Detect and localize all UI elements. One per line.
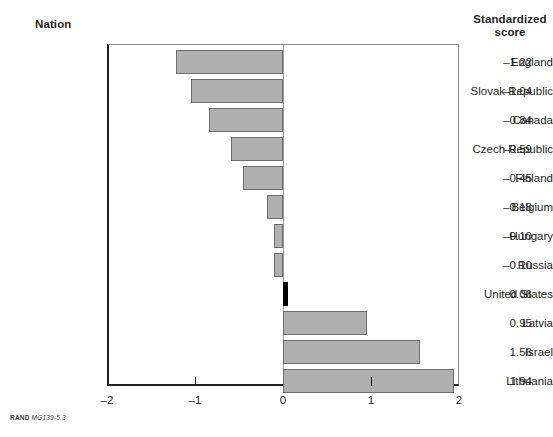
score-value-czech-republic: –0.59	[470, 143, 532, 155]
nation-column-header: Nation	[35, 18, 71, 31]
score-header-line2: score	[470, 26, 550, 39]
x-tick-label-neg1: –1	[175, 394, 215, 406]
bar-czech-republic	[231, 137, 283, 161]
rand-logo-text: RAND	[10, 414, 30, 421]
score-value-israel: 1.56	[470, 346, 532, 358]
x-tick-label-2: 2	[439, 394, 479, 406]
bar-lithuania	[283, 369, 454, 393]
score-value-russia: –0.10	[470, 259, 532, 271]
standardized-score-column-header: Standardized score	[470, 13, 550, 39]
chart-figure: Nation Standardized score EnglandSlovak …	[0, 0, 553, 437]
figure-credit: RAND MG139-5.3	[10, 414, 66, 421]
figure-number: MG139-5.3	[32, 414, 66, 421]
bar-united-states	[283, 282, 288, 306]
x-tick-label-0: 0	[263, 394, 303, 406]
score-value-hungary: –0.10	[470, 230, 532, 242]
bar-belgium	[267, 195, 283, 219]
x-tick-label-1: 1	[351, 394, 391, 406]
x-tick-mark-1	[371, 377, 372, 386]
x-tick-label-neg2: –2	[87, 394, 127, 406]
bar-russia	[274, 253, 283, 277]
score-value-canada: –0.84	[470, 114, 532, 126]
bar-latvia	[283, 311, 367, 335]
x-tick-mark-neg1	[195, 377, 196, 386]
score-value-lithuania: 1.94	[470, 375, 532, 387]
bar-israel	[283, 340, 420, 364]
score-value-england: –1.22	[470, 56, 532, 68]
score-value-belgium: –0.18	[470, 201, 532, 213]
score-value-slovak-republic: –1.04	[470, 85, 532, 97]
bar-canada	[209, 108, 283, 132]
bar-england	[176, 50, 283, 74]
bar-finland	[243, 166, 283, 190]
bar-slovak-republic	[191, 79, 283, 103]
score-value-latvia: 0.95	[470, 317, 532, 329]
score-value-united-states: 0.06	[470, 288, 532, 300]
score-value-finland: –0.45	[470, 172, 532, 184]
score-header-line1: Standardized	[473, 13, 546, 25]
bar-hungary	[274, 224, 283, 248]
